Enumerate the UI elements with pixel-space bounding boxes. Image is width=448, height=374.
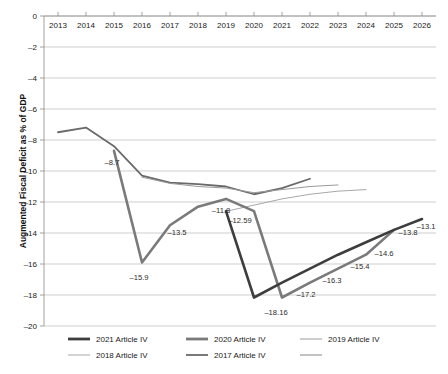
data-label-8: –15.4 [350,262,369,271]
y-tick-label-2: –4 [28,74,37,83]
data-label-2: –13.5 [167,228,186,237]
x-tick-label-10: 2023 [329,21,347,30]
x-tick-label-12: 2025 [385,21,403,30]
legend-label-2: 2019 Article IV [328,335,380,344]
x-tick-label-13: 2026 [413,21,431,30]
series-line-2017-article-iv [58,128,310,195]
y-tick-label-10: –20 [24,322,38,331]
x-tick-label-0: 2013 [49,21,67,30]
y-tick-label-8: –16 [24,260,38,269]
data-label-9: –14.6 [374,249,393,258]
y-tick-label-3: –6 [28,105,37,114]
x-tick-label-3: 2016 [133,21,151,30]
y-tick-label-9: –18 [24,291,38,300]
data-label-7: –16.3 [322,276,341,285]
y-tick-label-1: –2 [28,43,37,52]
x-axis-tick-labels: 2013201420152016201720182019202020212022… [49,21,431,30]
x-tick-label-2: 2015 [105,21,123,30]
data-label-1: –15.9 [129,273,148,282]
chart-legend: 2021 Article IV2020 Article IV2019 Artic… [68,335,380,360]
data-label-0: –8.7 [105,158,120,167]
x-tick-label-11: 2024 [357,21,375,30]
data-label-3: –11.8 [212,206,230,215]
y-tick-label-4: –8 [28,136,37,145]
x-tick-label-7: 2020 [245,21,263,30]
y-axis-title-text: Augmented Fiscal Deficit as % of GDP [18,93,28,248]
data-label-6: –17.2 [296,290,315,299]
data-label-11: –13.1 [416,222,435,231]
x-tick-label-9: 2022 [301,21,319,30]
data-label-10: –13.8 [398,228,417,237]
axes [40,12,436,326]
x-tick-label-1: 2014 [77,21,95,30]
chart-container: 0–2–4–6–8–10–12–14–16–18–20 201320142015… [0,0,448,374]
x-tick-label-6: 2019 [217,21,235,30]
gridlines [44,16,436,326]
x-tick-label-8: 2021 [273,21,291,30]
legend-label-1: 2020 Article IV [214,335,266,344]
data-label-4: –12.59 [228,216,251,225]
series-line-2020-article-iv [114,151,394,298]
x-tick-label-4: 2017 [161,21,179,30]
data-label-5: –18.16 [264,308,287,317]
x-tick-label-5: 2018 [189,21,207,30]
y-axis-title: Augmented Fiscal Deficit as % of GDP [18,93,28,248]
y-tick-label-0: 0 [33,12,38,21]
legend-label-0: 2021 Article IV [96,335,148,344]
line-chart: 0–2–4–6–8–10–12–14–16–18–20 201320142015… [0,0,448,374]
legend-label-4: 2017 Article IV [214,351,266,360]
data-series-lines [58,128,422,298]
legend-label-3: 2018 Article IV [96,351,148,360]
